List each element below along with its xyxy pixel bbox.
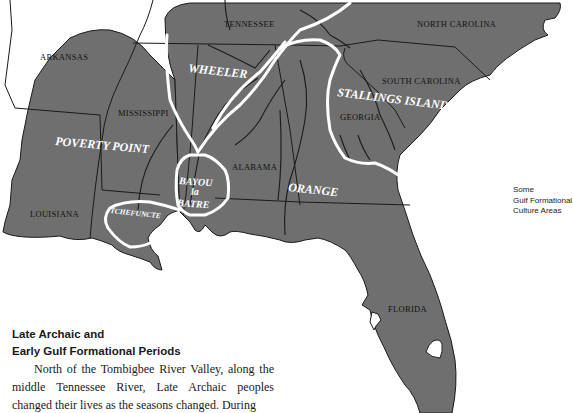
state-label-florida: FLORIDA — [388, 304, 427, 314]
map-legend: Some Gulf Formational Culture Areas — [513, 185, 572, 217]
state-label-tennessee: TENNESSEE — [224, 19, 274, 29]
legend-line-3: Culture Areas — [513, 206, 572, 217]
article-section: Late Archaic and Early Gulf Formational … — [12, 326, 274, 413]
section-heading-line-2: Early Gulf Formational Periods — [12, 345, 181, 357]
state-label-north-carolina: NORTH CAROLINA — [417, 19, 497, 29]
legend-line-2: Gulf Formational — [513, 196, 572, 207]
legend-line-1: Some — [513, 185, 572, 196]
state-label-mississippi: MISSISSIPPI — [118, 108, 169, 118]
section-heading-line-1: Late Archaic and — [12, 328, 104, 340]
state-label-georgia: GEORGIA — [340, 112, 381, 122]
state-label-alabama: ALABAMA — [232, 162, 278, 172]
state-label-arkansas: ARKANSAS — [40, 52, 88, 62]
section-heading: Late Archaic and Early Gulf Formational … — [12, 326, 274, 360]
state-label-louisiana: LOUISIANA — [30, 209, 80, 219]
body-paragraph: North of the Tombigbee River Valley, alo… — [12, 360, 274, 413]
culture-label-la: la — [191, 186, 199, 197]
state-label-south-carolina: SOUTH CAROLINA — [382, 76, 461, 86]
culture-label-batre: BATRE — [176, 197, 210, 210]
